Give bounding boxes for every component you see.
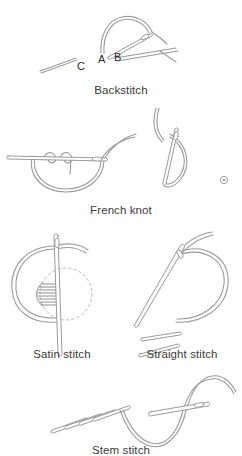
filled-parallel-stitches (38, 284, 56, 305)
satin-stitch-illustration (0, 228, 124, 368)
overlapping-slanted-stitches (51, 406, 130, 433)
completed-stitch-left-2 (41, 60, 77, 73)
thread-curve-right (184, 376, 236, 418)
caption-backstitch: Backstitch (0, 84, 242, 96)
needle-eye (55, 238, 59, 247)
thread-top-tail (56, 244, 88, 250)
thread-curve-right-inner (181, 379, 234, 417)
caption-straight-stitch: Straight stitch (122, 348, 242, 360)
figure-stem-stitch: Stem stitch (0, 370, 242, 456)
thread-from-top-inner (157, 108, 164, 140)
point-label-a: A (98, 53, 105, 65)
needle-body (54, 234, 62, 357)
finished-knot-center (223, 179, 226, 182)
figure-french-knot: French knot (0, 108, 242, 220)
completed-stitch-1 (141, 332, 182, 341)
needle-eye-left (92, 157, 102, 161)
point-label-b: B (114, 51, 121, 63)
thread-tail (152, 32, 167, 44)
completed-stitch-left (40, 58, 76, 71)
embroidery-stitch-diagram: C A B Backstitch (0, 0, 242, 456)
needle-eye (140, 33, 149, 40)
caption-stem-stitch: Stem stitch (0, 444, 242, 456)
caption-french-knot: French knot (0, 204, 242, 216)
point-label-c: C (77, 60, 85, 72)
dotted-shape-outline (40, 268, 92, 320)
thread-loop (176, 249, 228, 322)
straight-stitch-illustration (122, 228, 242, 368)
thread-loop-left (31, 156, 104, 192)
needle-body (134, 245, 184, 328)
figure-straight-stitch: Straight stitch (122, 228, 242, 368)
caption-satin-stitch: Satin stitch (0, 348, 124, 360)
figure-backstitch: C A B Backstitch (0, 0, 242, 110)
figure-satin-stitch: Satin stitch (0, 228, 124, 368)
thread-top-tail-inner (56, 248, 86, 253)
thread-loop-inner (177, 252, 224, 319)
